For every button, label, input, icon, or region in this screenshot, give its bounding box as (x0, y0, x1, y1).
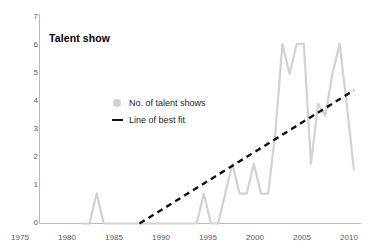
chart-legend: No. of talent shows Line of best fit (108, 96, 206, 130)
chart-title: Talent show (49, 32, 110, 44)
legend-label-best-fit: Line of best fit (126, 115, 185, 125)
legend-label-talent-shows: No. of talent shows (126, 98, 206, 108)
legend-item-best-fit: Line of best fit (108, 113, 206, 127)
talent-show-chart: 7 6 5 4 3 2 1 0 1975 1980 1985 1990 1995… (0, 0, 375, 251)
dot-marker-icon (108, 99, 126, 107)
talent-shows-series-line (82, 44, 353, 224)
legend-item-talent-shows: No. of talent shows (108, 96, 206, 110)
dash-marker-icon (108, 119, 126, 122)
